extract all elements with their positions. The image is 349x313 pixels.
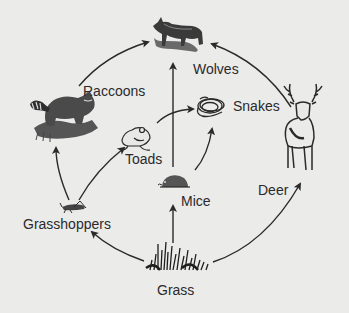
label-snakes: Snakes [233, 99, 280, 113]
arrow-grass-to-grasshoppers [92, 232, 144, 261]
wolf-icon [153, 17, 203, 52]
label-raccoons: Raccoons [83, 84, 145, 98]
label-grass: Grass [157, 283, 194, 297]
snake-icon [198, 97, 225, 116]
arrow-mice-to-snakes [195, 129, 212, 170]
arrow-toads-to-snakes [157, 109, 193, 123]
label-mice: Mice [181, 194, 211, 208]
toad-icon [122, 128, 150, 151]
grasshopper-icon [60, 201, 86, 213]
grass-icon [146, 242, 208, 270]
arrow-grasshoppers-to-toads [79, 148, 124, 200]
arrow-grasshoppers-to-raccoons [56, 148, 69, 200]
label-toads: Toads [125, 152, 162, 166]
deer-icon [284, 84, 322, 170]
label-wolves: Wolves [193, 62, 239, 76]
food-web-diagram: Wolves Raccoons Snakes Deer Toads Mice G… [0, 0, 349, 313]
mouse-icon [158, 175, 190, 187]
food-web-graphics [0, 0, 349, 313]
arrow-raccoons-to-wolves [79, 42, 148, 86]
label-grasshoppers: Grasshoppers [23, 217, 111, 231]
label-deer: Deer [258, 183, 288, 197]
raccoon-icon [30, 92, 98, 142]
